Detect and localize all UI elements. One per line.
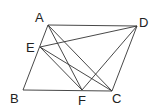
- diagram-canvas: A B C D E F: [0, 0, 158, 107]
- label-D: D: [139, 15, 148, 30]
- label-B: B: [10, 91, 19, 106]
- geometry-diagram: A B C D E F: [0, 0, 158, 107]
- segment-AF: [48, 25, 82, 90]
- segment-ED: [40, 26, 137, 47]
- label-C: C: [112, 91, 121, 106]
- segments-group: [23, 25, 137, 91]
- segment-AD: [48, 25, 137, 26]
- segment-CB: [23, 90, 112, 91]
- label-E: E: [26, 40, 35, 55]
- segment-DF: [82, 26, 137, 90]
- segment-DC: [112, 26, 137, 91]
- segment-BA: [23, 25, 48, 90]
- labels-group: A B C D E F: [10, 10, 148, 107]
- label-F: F: [78, 93, 86, 107]
- label-A: A: [35, 10, 44, 25]
